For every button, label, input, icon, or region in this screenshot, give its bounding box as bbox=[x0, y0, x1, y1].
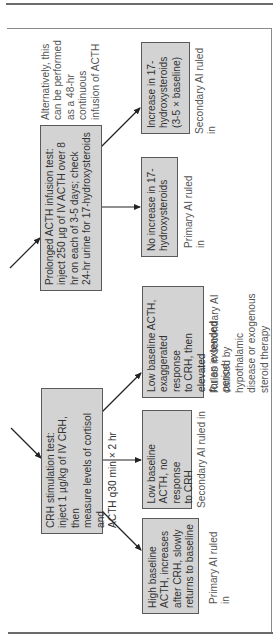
crh-stimulation-test-box: CRH stimulation test: inject 1 µg/kg of … bbox=[41, 388, 103, 534]
high-baseline-box: High baseline ACTH, increases after CRH,… bbox=[142, 518, 199, 614]
high-baseline-result-text: Primary AI ruled in bbox=[207, 522, 220, 604]
increase-17ohcs-result: Secondary AI ruled in bbox=[193, 38, 206, 134]
no-response-result-text: Secondary AI ruled in bbox=[195, 404, 208, 508]
no-increase-17ohcs-result: Primary AI ruled in bbox=[182, 168, 195, 248]
exaggerated-response-result: Rules in secondary AI caused by hypothal… bbox=[209, 287, 263, 393]
no-response-text: Low baseline ACTH, no response to CRH bbox=[142, 410, 192, 509]
alternative-note: Alternatively, this can be performed as … bbox=[40, 40, 102, 120]
no-response-box: Low baseline ACTH, no response to CRH bbox=[142, 410, 192, 509]
increase-17ohcs-box: Increase in 17- hydroxysteroids (3-5 × b… bbox=[141, 42, 190, 134]
no-increase-17ohcs-text: No increase in 17- hydroxysteroids bbox=[141, 157, 178, 257]
top-rule bbox=[6, 3, 273, 5]
crh-stimulation-test-text: CRH stimulation test: inject 1 µg/kg of … bbox=[41, 388, 103, 534]
bottom-rule bbox=[8, 632, 273, 634]
alternative-note-text: Alternatively, this can be performed as … bbox=[40, 40, 102, 120]
prolonged-acth-test-text: Prolonged ACTH infusion test: inject 250… bbox=[40, 125, 102, 291]
increase-17ohcs-result-text: Secondary AI ruled in bbox=[193, 38, 206, 134]
high-baseline-text: High baseline ACTH, increases after CRH,… bbox=[142, 518, 199, 614]
no-response-result: Secondary AI ruled in bbox=[195, 404, 208, 508]
exaggerated-response-box: Low baseline ACTH, exaggerated response … bbox=[142, 286, 204, 398]
exaggerated-response-text: Low baseline ACTH, exaggerated response … bbox=[142, 286, 204, 398]
high-baseline-result: Primary AI ruled in bbox=[207, 522, 220, 604]
increase-17ohcs-text: Increase in 17- hydroxysteroids (3-5 × b… bbox=[141, 42, 190, 134]
no-increase-17ohcs-result-text: Primary AI ruled in bbox=[182, 168, 195, 248]
prolonged-acth-test-box: Prolonged ACTH infusion test: inject 250… bbox=[40, 125, 102, 291]
exaggerated-response-result-text: Rules in secondary AI caused by hypothal… bbox=[209, 287, 263, 393]
no-increase-17ohcs-box: No increase in 17- hydroxysteroids bbox=[141, 157, 178, 257]
